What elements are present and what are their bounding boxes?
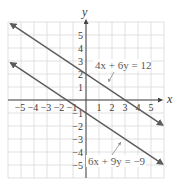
x-tick-label: −3 [41,102,52,113]
leader-arrow-icon [118,142,121,146]
y-tick-label: 3 [78,56,83,67]
x-tick-label: 2 [110,102,115,113]
y-tick-label: −2 [72,121,83,132]
y-tick-label: 1 [78,82,83,93]
equation-lines [11,24,163,164]
y-tick-label: −3 [72,134,83,145]
x-tick-label: −5 [15,102,26,113]
x-tick-label: −2 [54,102,65,113]
equation-label-2: 6x + 9y = −9 [88,155,146,167]
equation-label-1: 4x + 6y = 12 [95,59,151,71]
y-tick-label: 5 [78,30,83,41]
x-tick-label: 3 [123,102,128,113]
y-axis-label: y [81,5,88,19]
y-tick-label: −5 [72,160,83,171]
graph: −5−4−3−2−11234554321−1−2−3−4−5 4x + 6y =… [0,0,178,193]
x-tick-label: 1 [97,102,102,113]
x-tick-label: −4 [28,102,39,113]
x-axis-label: x [166,92,173,106]
x-tick-label: 5 [149,102,154,113]
y-tick-label: 4 [78,43,83,54]
y-tick-label: −4 [72,147,83,158]
